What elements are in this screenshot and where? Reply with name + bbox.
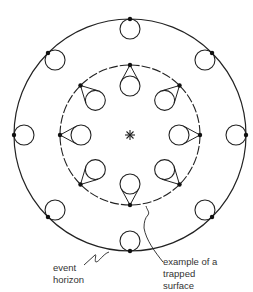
label-line: horizon (53, 274, 84, 286)
event-horizon-leader-line (84, 252, 109, 265)
trapped-surface-leader-line (144, 206, 163, 262)
label-line: event (53, 262, 84, 274)
event-horizon-label: event horizon (53, 262, 84, 286)
trapped-surface-label: example of a trapped surface (163, 256, 217, 292)
label-line: example of a (163, 256, 217, 268)
label-line: surface (163, 280, 217, 292)
diagram-canvas (0, 0, 253, 292)
center-star-icon (125, 130, 135, 140)
label-line: trapped (163, 268, 217, 280)
